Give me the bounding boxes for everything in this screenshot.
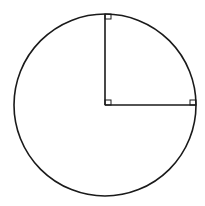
radii xyxy=(105,14,196,105)
right-angle-markers xyxy=(105,14,196,105)
circle-diagram xyxy=(0,0,205,206)
